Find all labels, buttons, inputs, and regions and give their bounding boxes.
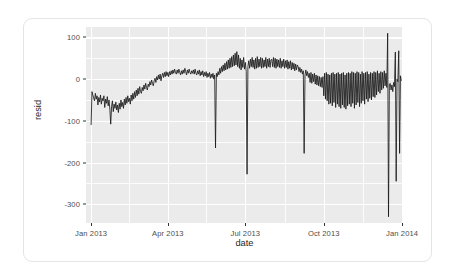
x-tick-label: Jul 2013 <box>231 229 261 238</box>
residual-time-series-chart: 1000-100-200-300 Jan 2013Apr 2013Jul 201… <box>24 19 433 263</box>
x-tick-label: Oct 2013 <box>308 229 340 238</box>
x-axis-title: date <box>86 238 403 248</box>
series-layer <box>86 27 403 223</box>
x-tick-mark <box>324 223 325 226</box>
x-tick-mark <box>91 223 92 226</box>
y-tick-label: 100 <box>34 33 80 42</box>
y-tick-label: -300 <box>34 200 80 209</box>
x-tick-mark <box>245 223 246 226</box>
x-tick-mark <box>168 223 169 226</box>
x-tick-mark <box>402 223 403 226</box>
x-tick-label: Jan 2014 <box>386 229 418 238</box>
resid-line <box>91 33 401 216</box>
plot-panel <box>86 27 403 223</box>
x-tick-label: Apr 2013 <box>152 229 184 238</box>
plot-card: 1000-100-200-300 Jan 2013Apr 2013Jul 201… <box>23 18 432 262</box>
y-axis-title: resid <box>33 60 43 160</box>
x-tick-label: Jan 2013 <box>75 229 107 238</box>
screenshot-root: 1000-100-200-300 Jan 2013Apr 2013Jul 201… <box>0 0 455 276</box>
